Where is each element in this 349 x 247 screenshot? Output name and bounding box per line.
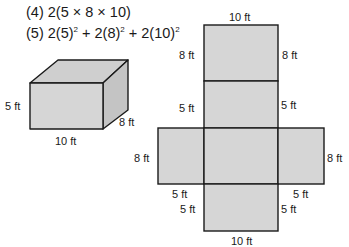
rectangular-prism [30, 60, 128, 129]
net-middle-left-label: 8 ft [134, 152, 149, 164]
net-right-face [278, 128, 324, 184]
net-right-bottom-label: 5 ft [293, 188, 308, 200]
net-back-face [204, 81, 278, 128]
net-middle-right-label: 8 ft [327, 152, 342, 164]
prism-front-face [30, 83, 103, 129]
net-top-right-label: 8 ft [282, 49, 297, 61]
net-bottom-face [204, 128, 278, 184]
net-top-left-label: 8 ft [179, 49, 194, 61]
net-front-face [204, 184, 278, 231]
net-left-bottom-label: 5 ft [172, 188, 187, 200]
prism-height-label: 5 ft [5, 100, 20, 112]
net-second-left-label: 5 ft [179, 102, 194, 114]
net-left-face [158, 128, 204, 184]
net-top-face [204, 25, 278, 81]
net-top-width-label: 10 ft [229, 11, 250, 23]
prism-width-label: 10 ft [55, 135, 76, 147]
diagram-canvas: 5 ft 10 ft 8 ft 10 ft 8 ft 8 ft 5 ft 5 f… [0, 0, 349, 247]
net-bottom-width-label: 10 ft [231, 235, 252, 247]
net-bottom-left-label: 5 ft [180, 203, 195, 215]
prism-depth-label: 8 ft [119, 116, 134, 128]
net-second-right-label: 5 ft [281, 99, 296, 111]
net-bottom-right-label: 5 ft [281, 203, 296, 215]
